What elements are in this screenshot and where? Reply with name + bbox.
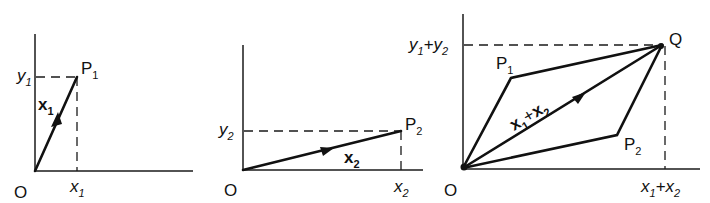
origin-label: O <box>444 181 457 200</box>
panel-1: O P1 x1 x1 y1 <box>14 34 193 202</box>
panel-2: O P2 x2 x2 y2 <box>218 45 423 200</box>
sum-vector-label: x1+x2 <box>506 97 553 137</box>
y-tick-label: y2 <box>218 120 234 142</box>
y-tick-label: y1 <box>16 66 32 88</box>
arrowhead-icon <box>320 147 334 156</box>
origin-label: O <box>224 181 237 200</box>
arrowhead-icon <box>572 92 586 104</box>
figure-canvas: O P1 x1 x1 y1 O P2 x2 x2 y2 O Q P1 P2 x1 <box>0 0 710 203</box>
vector-addition-figure: O P1 x1 x1 y1 O P2 x2 x2 y2 O Q P1 P2 x1 <box>0 0 710 203</box>
panel-3: O Q P1 P2 x1+x2 x1+x2 y1+y2 <box>408 14 700 200</box>
point-label: P1 <box>81 59 98 81</box>
vector-label: x2 <box>344 148 360 170</box>
y-sum-tick-label: y1+y2 <box>408 35 448 57</box>
x-tick-label: x1 <box>69 177 85 199</box>
p1-label: P1 <box>496 54 513 76</box>
x-sum-tick-label: x1+x2 <box>640 177 680 199</box>
x-tick-label: x2 <box>393 177 409 199</box>
vector-label: x1 <box>38 95 54 117</box>
q-label: Q <box>669 30 682 49</box>
point-label: P2 <box>405 115 422 137</box>
p2-label: P2 <box>624 135 641 157</box>
origin-label: O <box>14 183 27 202</box>
q-dot <box>658 43 664 49</box>
origin-dot <box>461 164 468 171</box>
